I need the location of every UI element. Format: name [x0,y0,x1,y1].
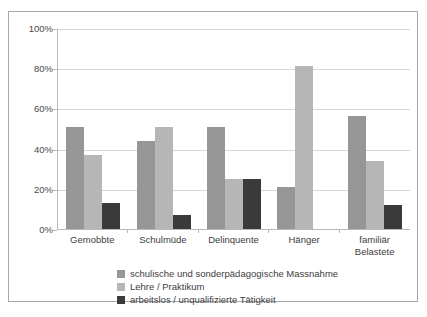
legend-color-swatch [117,283,125,291]
y-axis: 100%80%60%40%20%0% [9,29,53,230]
x-axis-category-label: familiärBelastete [339,234,410,258]
legend-item[interactable]: schulische und sonderpädagogische Massna… [117,267,377,280]
x-axis-tick-mark [127,229,128,233]
bar-groups [58,29,410,229]
x-axis-category-label-line: Belastete [339,246,410,258]
legend-color-swatch [117,270,125,278]
x-axis-tick-mark [268,229,269,233]
y-axis-tick-label: 20% [13,185,53,195]
plot-area [57,29,410,230]
x-axis-category-label-line: familiär [339,234,410,246]
y-axis-tick-label: 40% [13,145,53,155]
x-axis-category-label-line: Schulmüde [128,234,199,246]
bar[interactable] [225,179,243,229]
legend-color-swatch [117,296,125,304]
legend-item-label: schulische und sonderpädagogische Massna… [130,267,338,280]
chart-frame: 100%80%60%40%20%0% GemobbteSchulmüdeDeli… [8,11,418,302]
x-axis: GemobbteSchulmüdeDelinquenteHängerfamili… [57,234,410,258]
y-axis-tick-label: 80% [13,64,53,74]
x-axis-category-label: Hänger [269,234,340,258]
bar[interactable] [277,187,295,229]
bar[interactable] [137,141,155,229]
legend-item[interactable]: Lehre / Praktikum [117,280,377,293]
x-axis-category-label-line: Hänger [269,234,340,246]
x-axis-category-label-line: Gemobbte [57,234,128,246]
bar[interactable] [243,179,261,229]
bar-group [340,29,410,229]
x-axis-tick-mark [198,229,199,233]
y-axis-tick-label: 60% [13,105,53,115]
legend-item-label: Lehre / Praktikum [130,280,204,293]
bar[interactable] [295,66,313,229]
bar[interactable] [207,127,225,230]
bar[interactable] [102,203,120,229]
legend-item[interactable]: arbeitslos / unqualifizierte Tätigkeit [117,293,377,306]
bar[interactable] [384,205,402,229]
bar-group [58,29,128,229]
x-axis-tick-mark [339,229,340,233]
y-axis-tick-label: 0% [13,225,53,235]
y-axis-tick-label: 100% [13,24,53,34]
bar-group [199,29,269,229]
x-axis-category-label: Delinquente [198,234,269,258]
bar[interactable] [84,155,102,229]
bar[interactable] [66,127,84,230]
bar-group [128,29,198,229]
legend: schulische und sonderpädagogische Massna… [117,267,377,306]
x-axis-category-label-line: Delinquente [198,234,269,246]
bar[interactable] [366,161,384,229]
x-axis-category-label: Schulmüde [128,234,199,258]
bar-group [269,29,339,229]
bar[interactable] [348,116,366,229]
legend-item-label: arbeitslos / unqualifizierte Tätigkeit [130,293,276,306]
bar[interactable] [173,215,191,229]
bar[interactable] [155,127,173,230]
y-axis-tick-mark [53,230,57,231]
x-axis-category-label: Gemobbte [57,234,128,258]
